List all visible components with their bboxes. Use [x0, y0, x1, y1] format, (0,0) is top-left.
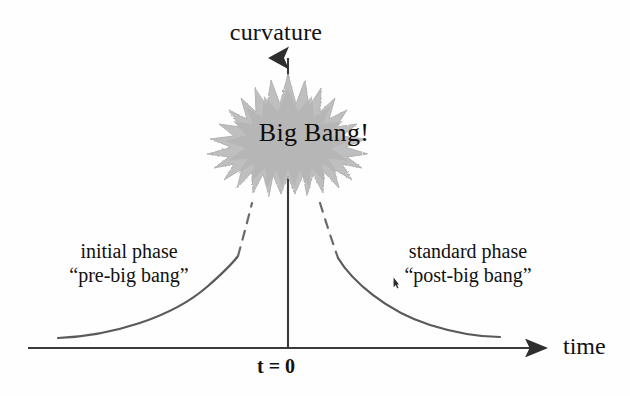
post-big-bang-dashed-curve [320, 203, 338, 258]
initial-phase-annotation: initial phase “pre-big bang” [44, 240, 214, 287]
big-bang-curvature-diagram: curvature time Big Bang! t = 0 initial p… [0, 0, 630, 396]
standard-phase-line-1: standard phase [409, 240, 527, 262]
initial-phase-line-1: initial phase [80, 240, 177, 262]
standard-phase-line-2: “post-big bang” [378, 264, 558, 288]
origin-label: t = 0 [0, 355, 630, 379]
origin-label-text: t = 0 [257, 355, 295, 377]
diagram-canvas [0, 0, 630, 396]
curvature-axis-label-text: curvature [230, 19, 322, 45]
big-bang-label-text: Big Bang! [259, 118, 369, 147]
curvature-axis-label: curvature [0, 18, 630, 46]
initial-phase-line-2: “pre-big bang” [44, 264, 214, 288]
standard-phase-annotation: standard phase “post-big bang” [378, 240, 558, 287]
pre-big-bang-dashed-curve [238, 203, 252, 256]
big-bang-label: Big Bang! [0, 118, 630, 149]
